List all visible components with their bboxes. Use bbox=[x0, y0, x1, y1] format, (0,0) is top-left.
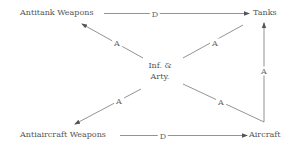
edge-label-center-to-antiaircraft: A bbox=[114, 97, 124, 106]
edge-label-center-to-aircraft: A bbox=[216, 98, 226, 107]
node-tanks: Tanks bbox=[253, 8, 277, 18]
node-inf-arty-line2: Arty. bbox=[151, 72, 170, 82]
edge-center-to-antiaircraft bbox=[75, 89, 141, 124]
node-inf-arty-line1: Inf. & bbox=[148, 61, 171, 71]
node-aircraft: Aircraft bbox=[249, 130, 280, 140]
edge-label-antiaircraft-to-aircraft: D bbox=[158, 131, 168, 140]
node-antiaircraft-weapons: Antiaircraft Weapons bbox=[20, 130, 106, 140]
node-antitank-weapons: Antitank Weapons bbox=[20, 8, 94, 18]
edge-label-antitank-to-tanks: D bbox=[150, 9, 160, 18]
edge-label-center-to-antitank: A bbox=[112, 39, 122, 48]
diagram-canvas: Antitank Weapons Tanks Inf. & Arty. Anti… bbox=[0, 0, 300, 148]
edge-label-aircraft-to-tanks: A bbox=[259, 67, 269, 76]
edge-label-center-to-tanks: A bbox=[210, 39, 220, 48]
